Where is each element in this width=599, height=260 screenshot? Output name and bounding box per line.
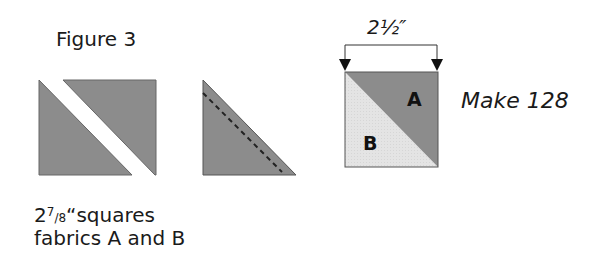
dimension-label: 2½″: [367, 15, 407, 39]
make-count-label: Make 128: [461, 88, 569, 113]
arrow-down-left-icon: [339, 59, 351, 71]
sewn-triangle: [203, 80, 296, 175]
label-b: B: [363, 132, 377, 154]
dimension-marker: [339, 45, 443, 71]
label-a: A: [407, 88, 422, 110]
cut-square-pieces: [39, 80, 156, 175]
sewn-triangle-shape: [203, 80, 296, 175]
finished-block: A B: [345, 72, 438, 167]
arrow-down-right-icon: [431, 59, 443, 71]
caption-fabrics: fabrics A and B: [34, 225, 185, 251]
